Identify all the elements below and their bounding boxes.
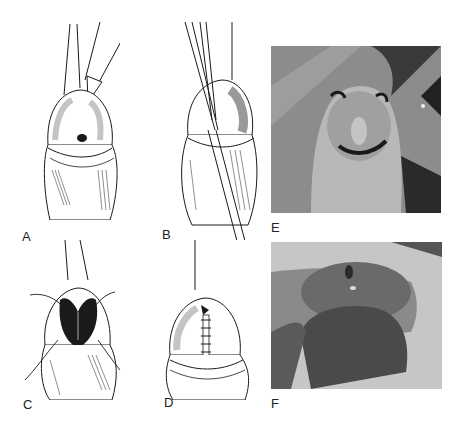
illustration-a-drawing bbox=[20, 20, 120, 220]
photo-f-content bbox=[271, 242, 442, 389]
panel-c-illustration bbox=[20, 240, 130, 400]
illustration-c-drawing bbox=[20, 240, 130, 400]
panel-label-f: F bbox=[271, 397, 279, 410]
photo-e-content bbox=[271, 46, 441, 213]
panel-label-e: E bbox=[271, 221, 280, 234]
panel-d-illustration bbox=[165, 240, 265, 400]
illustration-b-drawing bbox=[160, 20, 270, 240]
panel-label-d: D bbox=[164, 396, 173, 409]
panel-b-illustration bbox=[160, 20, 270, 240]
panel-a-illustration bbox=[20, 20, 120, 220]
panel-label-c: C bbox=[23, 398, 32, 411]
illustration-d-drawing bbox=[165, 240, 265, 400]
panel-e-photograph bbox=[271, 46, 441, 213]
panel-f-photograph bbox=[271, 242, 442, 389]
